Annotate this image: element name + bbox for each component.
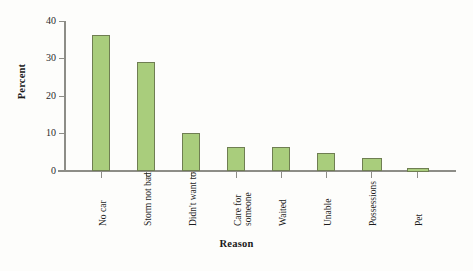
- bar-chart: Percent 40 30 20 10 0 No car Storm not b…: [0, 0, 473, 271]
- x-tick-mark-unable: [326, 172, 327, 178]
- x-tick-label-care-for-someone: Care for someone: [233, 180, 253, 226]
- x-tick-label-didnt-want-to: Didn't want to: [188, 172, 198, 226]
- bar-unable: [317, 153, 335, 171]
- bar-didnt-want-to: [182, 133, 200, 171]
- x-tick-mark-waited: [281, 172, 282, 178]
- y-tick-label-10: 10: [30, 127, 56, 138]
- x-axis-line: [58, 170, 456, 172]
- x-tick-mark-no-car: [101, 172, 102, 178]
- x-tick-label-no-car: No car: [98, 200, 108, 226]
- x-tick-label-unable: Unable: [323, 199, 333, 226]
- x-tick-mark-possessions: [371, 172, 372, 178]
- x-tick-mark-pet: [417, 172, 418, 178]
- y-axis-title: Percent: [16, 52, 27, 112]
- x-tick-label-waited: Waited: [278, 199, 288, 226]
- y-axis-line: [64, 21, 66, 171]
- y-tick-label-20: 20: [30, 90, 56, 101]
- bar-no-car: [92, 35, 110, 171]
- y-tick-label-40: 40: [30, 15, 56, 26]
- x-tick-mark-care-for-someone: [236, 172, 237, 178]
- y-tick-label-30: 30: [30, 52, 56, 63]
- x-tick-label-possessions: Possessions: [368, 181, 378, 226]
- x-axis-title: Reason: [0, 238, 473, 249]
- bar-possessions: [362, 158, 382, 171]
- x-tick-label-pet: Pet: [414, 214, 424, 226]
- y-tick-label-0: 0: [30, 165, 56, 176]
- bar-pet: [407, 168, 429, 172]
- bar-waited: [272, 147, 290, 171]
- x-tick-label-storm-not-bad: Storm not bad: [143, 172, 153, 226]
- bar-storm-not-bad: [137, 62, 155, 171]
- bar-care-for-someone: [227, 147, 245, 171]
